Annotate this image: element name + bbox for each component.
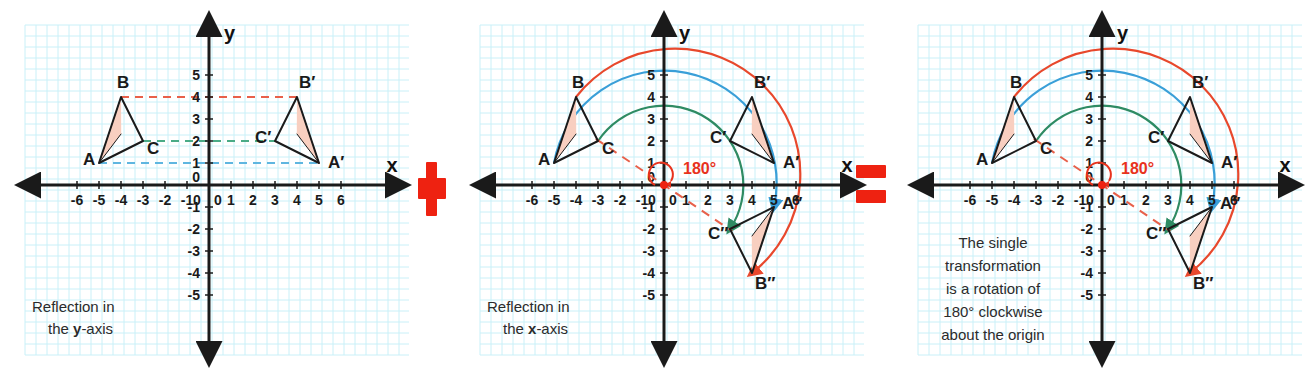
x-tick-label: -4 xyxy=(1008,192,1021,208)
x-tick-label: 4 xyxy=(1186,192,1194,208)
y-tick-label: -4 xyxy=(188,265,201,281)
vertex-label-Bp: B′ xyxy=(1192,73,1208,92)
x-tick-label: 5 xyxy=(315,192,323,208)
panel-reflection-y-axis: x y -6-5-4-3-2-11234560054321-1-2-3-4-50… xyxy=(0,0,420,378)
vertex-label-Cp: C′ xyxy=(710,128,726,147)
y-tick-label: 3 xyxy=(647,111,655,127)
y-tick-label: -5 xyxy=(1081,287,1094,303)
x-tick-label: -2 xyxy=(614,192,627,208)
y-tick-label: -3 xyxy=(643,243,656,259)
y-tick-label: 4 xyxy=(647,89,655,105)
vertex-label-Bpp: B″ xyxy=(1193,274,1213,293)
vertex-label-A: A xyxy=(83,150,95,169)
equals-icon xyxy=(856,165,886,203)
panel-caption-line-1: Reflection in xyxy=(32,298,115,315)
y-tick-label: -2 xyxy=(188,221,201,237)
y-tick-label: -4 xyxy=(1081,265,1094,281)
vertex-label-Bpp: B″ xyxy=(755,274,775,293)
y-tick-label: 5 xyxy=(192,67,200,83)
panel-caption-line-4: 180° clockwise xyxy=(943,303,1042,320)
y-tick-label: 4 xyxy=(1085,89,1093,105)
y-tick-label: -1 xyxy=(188,199,201,215)
y-tick-label: -3 xyxy=(188,243,201,259)
x-tick-label: 1 xyxy=(682,192,690,208)
panel-caption-line-5: about the origin xyxy=(941,326,1044,343)
x-tick-label: -3 xyxy=(137,192,150,208)
vertex-label-C: C xyxy=(1040,139,1052,158)
x-axis-label: x xyxy=(1279,154,1290,176)
panel-caption-line-1: Reflection in xyxy=(487,298,570,315)
x-tick-label: -5 xyxy=(986,192,999,208)
y-tick-label: 5 xyxy=(647,67,655,83)
x-tick-label: -4 xyxy=(570,192,583,208)
rotation-angle-label: 180° xyxy=(683,160,716,177)
x-tick-label: 1 xyxy=(227,192,235,208)
vertex-label-App: A″ xyxy=(782,194,802,213)
vertex-label-Ap: A′ xyxy=(783,153,799,172)
vertex-label-Cp: C′ xyxy=(1148,128,1164,147)
x-tick-label: 2 xyxy=(704,192,712,208)
x-tick-label: 4 xyxy=(748,192,756,208)
vertex-label-A: A xyxy=(976,150,988,169)
panel-caption-line-2: the y-axis xyxy=(48,320,113,337)
panel-caption-line-2: the x-axis xyxy=(503,320,568,337)
vertex-label-Ap: A′ xyxy=(328,153,344,172)
y-axis-label: y xyxy=(224,22,236,44)
y-tick-label: -1 xyxy=(1081,199,1094,215)
origin-tick-label: 0 xyxy=(192,169,200,185)
x-tick-label: 3 xyxy=(726,192,734,208)
panel-caption-line-1: The single xyxy=(958,234,1027,251)
x-tick-label: 5 xyxy=(770,192,778,208)
panel-caption-line-3: is a rotation of xyxy=(946,280,1041,297)
x-tick-label: -3 xyxy=(592,192,605,208)
x-tick-label: 2 xyxy=(1142,192,1150,208)
y-tick-label: -5 xyxy=(188,287,201,303)
y-tick-label: 5 xyxy=(1085,67,1093,83)
operator-equals: = xyxy=(852,0,892,378)
graph-reflection-x-axis: x y -6-5-4-3-2-11234560054321-1-2-3-4-50… xyxy=(455,0,875,378)
figure-root: x y -6-5-4-3-2-11234560054321-1-2-3-4-50… xyxy=(0,0,1313,378)
vertex-label-Cpp: C″ xyxy=(1146,224,1166,243)
y-tick-label: -2 xyxy=(643,221,656,237)
panel-reflection-x-axis: x y -6-5-4-3-2-11234560054321-1-2-3-4-50… xyxy=(455,0,875,378)
x-tick-label: -5 xyxy=(93,192,106,208)
y-tick-label: -3 xyxy=(1081,243,1094,259)
plus-icon xyxy=(418,162,446,216)
origin-tick-label: 0 xyxy=(1107,192,1115,208)
x-tick-label: -2 xyxy=(1052,192,1065,208)
x-tick-label: 5 xyxy=(1208,192,1216,208)
x-tick-label: 2 xyxy=(249,192,257,208)
y-tick-label: 3 xyxy=(1085,111,1093,127)
y-tick-label: 2 xyxy=(647,133,655,149)
panel-caption-line-2: transformation xyxy=(945,257,1041,274)
x-tick-label: -3 xyxy=(1030,192,1043,208)
x-tick-label: -5 xyxy=(548,192,561,208)
x-tick-label: 3 xyxy=(271,192,279,208)
graph-reflection-y-axis: x y -6-5-4-3-2-11234560054321-1-2-3-4-50… xyxy=(0,0,420,378)
x-tick-label: 1 xyxy=(1120,192,1128,208)
graph-single-rotation: x y -6-5-4-3-2-11234560054321-1-2-3-4-50… xyxy=(900,0,1313,378)
x-tick-label: -6 xyxy=(964,192,977,208)
y-tick-label: -5 xyxy=(643,287,656,303)
x-tick-label: 3 xyxy=(1164,192,1172,208)
x-tick-label: -4 xyxy=(115,192,128,208)
vertex-label-Cp: C′ xyxy=(255,128,271,147)
y-tick-label: 2 xyxy=(192,133,200,149)
y-tick-label: -2 xyxy=(1081,221,1094,237)
y-axis-label: y xyxy=(679,22,691,44)
x-tick-label: -6 xyxy=(526,192,539,208)
y-tick-label: -4 xyxy=(643,265,656,281)
vertex-label-Cpp: C″ xyxy=(708,224,728,243)
vertex-label-App: A″ xyxy=(1220,194,1240,213)
panel-single-rotation: x y -6-5-4-3-2-11234560054321-1-2-3-4-50… xyxy=(900,0,1313,378)
x-tick-label: 6 xyxy=(337,192,345,208)
vertex-label-B: B xyxy=(1010,73,1022,92)
vertex-label-B: B xyxy=(117,73,129,92)
vertex-label-A: A xyxy=(538,150,550,169)
y-axis-label: y xyxy=(1117,22,1129,44)
x-axis-label: x xyxy=(841,154,852,176)
vertex-label-Bp: B′ xyxy=(754,73,770,92)
origin-tick-label: 0 xyxy=(669,192,677,208)
vertex-label-C: C xyxy=(147,139,159,158)
x-tick-label: -2 xyxy=(159,192,172,208)
